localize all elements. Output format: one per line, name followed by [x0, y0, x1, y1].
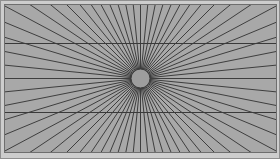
illusion-figure-container: Hering illusion radial fan figure — [0, 0, 280, 159]
center-occluder-disc — [131, 69, 150, 88]
hering-illusion-svg: Hering illusion radial fan figure — [0, 0, 280, 159]
